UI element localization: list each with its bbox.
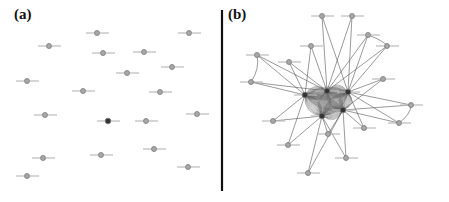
network-edge — [343, 105, 411, 110]
network-node — [34, 113, 57, 118]
node-circle-icon — [195, 112, 200, 117]
network-edge — [305, 46, 311, 95]
node-circle-icon — [306, 171, 311, 176]
network-node — [32, 156, 55, 161]
node-circle-icon — [385, 44, 390, 49]
network-node — [178, 31, 201, 36]
node-circle-icon — [286, 143, 291, 148]
node-circle-icon — [309, 44, 314, 49]
node-circle-icon — [105, 118, 111, 124]
network-node — [335, 156, 358, 161]
network-node — [372, 77, 395, 82]
network-node — [72, 89, 95, 94]
node-circle-icon — [302, 92, 308, 98]
network-edge — [251, 55, 258, 82]
node-circle-icon — [144, 119, 149, 124]
node-circle-icon — [319, 113, 325, 119]
node-circle-icon — [142, 50, 147, 55]
node-circle-icon — [152, 147, 157, 152]
node-circle-icon — [324, 88, 330, 94]
network-node — [311, 14, 334, 19]
network-edge — [327, 16, 352, 91]
network-node — [300, 44, 323, 49]
node-circle-icon — [255, 53, 260, 58]
node-circle-icon — [345, 89, 351, 95]
node-circle-icon — [397, 121, 402, 126]
panel-b-network — [240, 14, 423, 176]
node-circle-icon — [81, 89, 86, 94]
network-node — [143, 147, 166, 152]
network-edge — [308, 110, 343, 173]
network-edge — [322, 116, 346, 158]
network-edge — [327, 46, 387, 91]
network-node — [116, 71, 139, 76]
network-node — [135, 119, 158, 124]
network-edge — [257, 55, 327, 91]
network-edge — [348, 92, 399, 123]
network-edge — [348, 35, 368, 92]
panel-a-network — [16, 31, 209, 179]
network-node — [133, 50, 156, 55]
network-node — [86, 31, 109, 36]
network-node — [16, 79, 39, 84]
network-node — [186, 112, 209, 117]
network-edge — [343, 110, 346, 158]
node-circle-icon — [95, 31, 100, 36]
network-node — [177, 165, 200, 170]
node-circle-icon — [99, 153, 104, 158]
network-node — [38, 44, 61, 49]
panel-label-b: (b) — [228, 6, 246, 23]
network-node — [149, 90, 172, 95]
node-circle-icon — [41, 156, 46, 161]
node-circle-icon — [344, 156, 349, 161]
node-circle-icon — [271, 119, 276, 124]
node-circle-icon — [101, 51, 106, 56]
network-node — [357, 33, 380, 38]
node-circle-icon — [381, 77, 386, 82]
network-node — [246, 53, 269, 58]
node-circle-icon — [409, 103, 414, 108]
network-node — [341, 14, 364, 19]
network-edge — [348, 16, 352, 92]
node-circle-icon — [187, 31, 192, 36]
network-edge — [343, 110, 399, 123]
node-circle-icon — [43, 113, 48, 118]
network-node — [97, 118, 120, 124]
node-circle-icon — [125, 71, 130, 76]
network-node — [262, 119, 285, 124]
node-circle-icon — [249, 80, 254, 85]
network-edge — [327, 35, 368, 91]
node-circle-icon — [47, 44, 52, 49]
network-edge — [322, 16, 348, 92]
node-circle-icon — [170, 65, 175, 70]
network-node — [353, 126, 376, 131]
network-edge — [308, 116, 322, 173]
network-node — [16, 174, 39, 179]
node-circle-icon — [25, 174, 30, 179]
node-circle-icon — [287, 60, 292, 65]
panel-label-a: (a) — [14, 6, 32, 23]
network-edge — [368, 35, 387, 46]
node-circle-icon — [340, 107, 346, 113]
node-circle-icon — [186, 165, 191, 170]
node-circle-icon — [350, 14, 355, 19]
network-edge — [348, 46, 387, 92]
network-node — [161, 65, 184, 70]
node-circle-icon — [25, 79, 30, 84]
network-node — [317, 132, 340, 137]
node-circle-icon — [158, 90, 163, 95]
network-node — [376, 44, 399, 49]
node-circle-icon — [366, 33, 371, 38]
network-node — [277, 143, 300, 148]
node-circle-icon — [362, 126, 367, 131]
network-node — [278, 60, 301, 65]
network-node — [297, 171, 320, 176]
node-circle-icon — [320, 14, 325, 19]
network-edge — [273, 95, 305, 121]
network-figure — [0, 0, 449, 202]
network-node — [90, 153, 113, 158]
node-circle-icon — [326, 132, 331, 137]
network-edge — [399, 105, 411, 123]
network-node — [92, 51, 115, 56]
